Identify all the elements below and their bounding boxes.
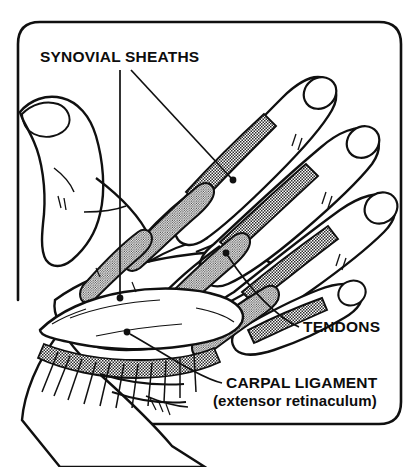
label-carpal-ligament: CARPAL LIGAMENT: [226, 374, 378, 391]
anatomy-figure: SYNOVIAL SHEATHS TENDONS CARPAL LIGAMENT…: [0, 0, 419, 467]
label-extensor-retinaculum: (extensor retinaculum): [213, 392, 377, 409]
illustration-canvas: SYNOVIAL SHEATHS TENDONS CARPAL LIGAMENT…: [0, 0, 419, 467]
label-tendons: TENDONS: [303, 318, 380, 335]
label-synovial-sheaths: SYNOVIAL SHEATHS: [40, 48, 199, 65]
leader-synovial-diagonal: [131, 70, 236, 183]
